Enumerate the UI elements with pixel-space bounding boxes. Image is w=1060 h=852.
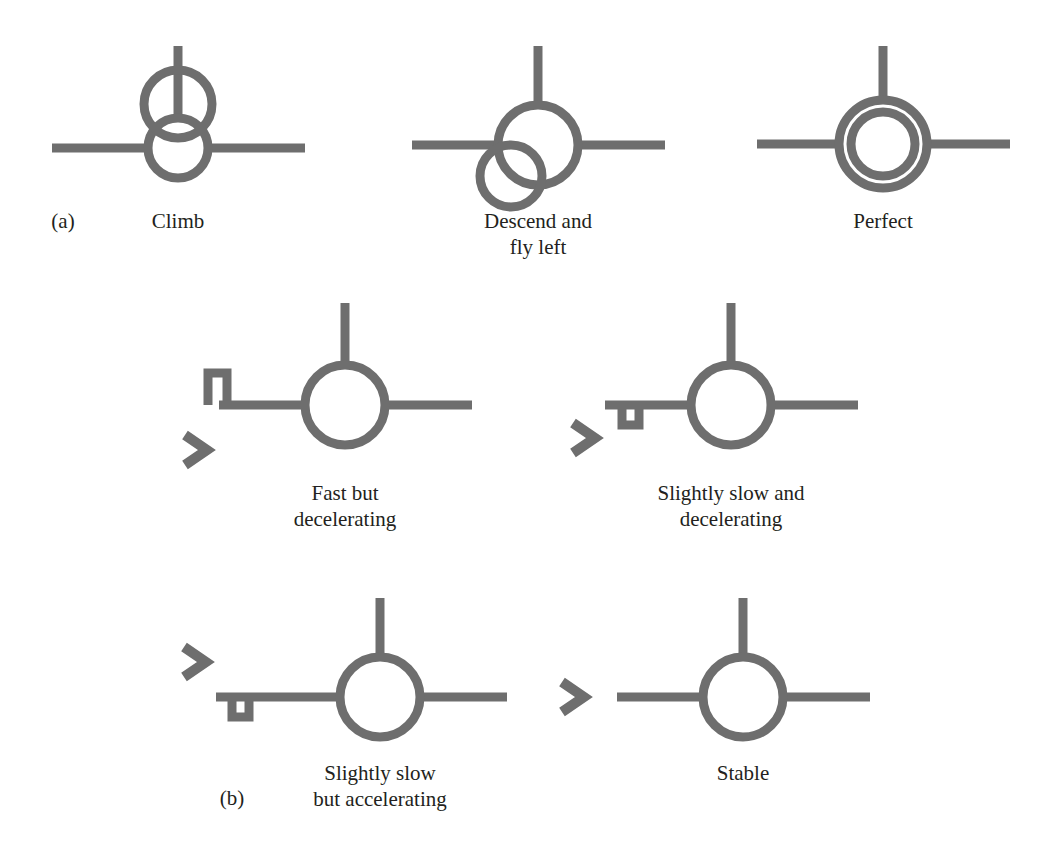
symbol-stable [562,598,870,737]
symbol-fast-but-decelerating [185,303,472,465]
caption-slightly-slow-but-accelerating: Slightly slowbut accelerating [313,761,447,811]
speed-chevron-icon [562,682,584,712]
symbol-descend-fly-left [412,46,665,207]
main-circle [305,365,385,445]
inner-circle [851,112,915,176]
caption-climb: Climb [152,209,205,233]
caption-line: Slightly slow and [657,481,805,505]
caption-perfect: Perfect [853,209,913,233]
speed-chevron-icon [184,647,206,677]
panel-label-b: (b) [220,786,245,810]
caption-line: Descend and [484,209,592,233]
caption-line: Perfect [853,209,913,233]
caption-line: but accelerating [313,787,447,811]
speed-notch-up [208,373,227,405]
caption-line: Climb [152,209,205,233]
speed-chevron-icon [185,435,207,465]
caption-descend-fly-left: Descend andfly left [484,209,592,259]
figure-canvas: ClimbDescend andfly leftPerfectFast butd… [0,0,1060,852]
speed-chevron-icon [573,423,595,453]
flight-director-symbol-figure: ClimbDescend andfly leftPerfectFast butd… [0,0,1060,852]
panel-labels-layer: (a)(b) [51,209,244,810]
main-circle [703,657,783,737]
caption-line: fly left [510,235,567,259]
caption-line: Stable [717,761,770,785]
caption-line: Fast but [311,481,378,505]
captions-layer: ClimbDescend andfly leftPerfectFast butd… [152,209,913,811]
symbols-layer [52,46,1010,737]
caption-stable: Stable [717,761,770,785]
symbol-perfect [757,46,1010,188]
main-circle [340,657,420,737]
symbol-slightly-slow-but-accelerating [184,598,507,737]
caption-line: decelerating [294,507,397,531]
panel-label-a: (a) [51,209,74,233]
symbol-climb [52,46,305,178]
caption-fast-but-decelerating: Fast butdecelerating [294,481,397,531]
caption-slightly-slow-and-decelerating: Slightly slow anddecelerating [657,481,805,531]
caption-line: decelerating [680,507,783,531]
caption-line: Slightly slow [324,761,436,785]
symbol-slightly-slow-and-decelerating [573,303,858,453]
main-circle [691,365,771,445]
